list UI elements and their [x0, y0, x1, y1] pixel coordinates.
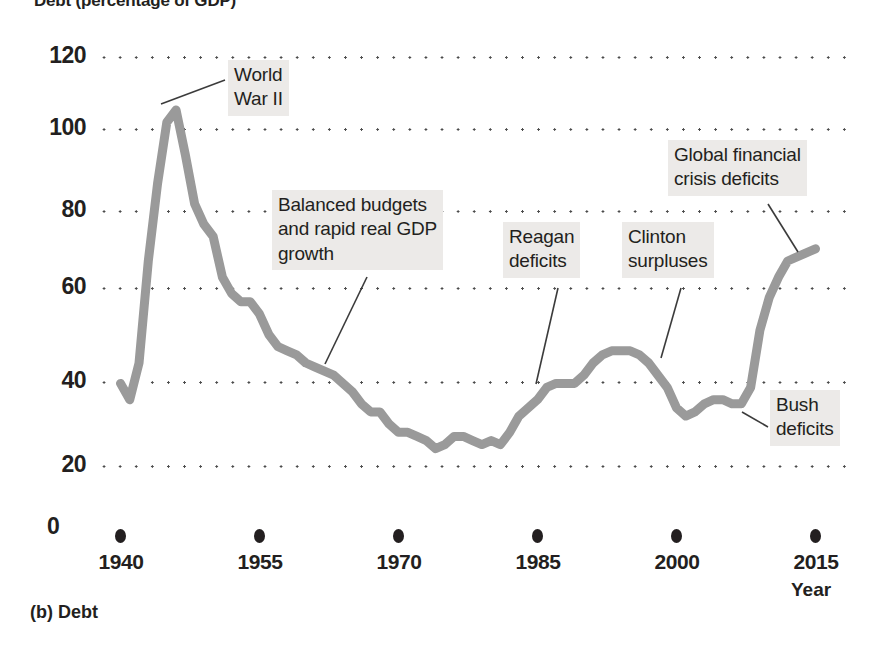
y-tick-60: 60	[26, 273, 86, 300]
gridline-20	[96, 465, 856, 468]
debt-chart-figure: Debt (percentage of GDP) 120 100 80 60 4…	[0, 0, 871, 651]
annotation-reagan-deficits: Reagan deficits	[503, 222, 580, 278]
panel-caption: (b) Debt	[30, 602, 98, 623]
x-tick-label-2015: 2015	[793, 550, 838, 574]
gridline-80	[96, 210, 856, 213]
gridline-100	[96, 128, 856, 131]
x-tick-dot-2000	[671, 529, 682, 543]
y-tick-100: 100	[26, 114, 86, 141]
gridline-40	[96, 381, 856, 384]
x-tick-label-1985: 1985	[515, 550, 560, 574]
annotation-global-financial-crisis: Global financial crisis deficits	[668, 140, 807, 196]
y-axis-labels: 120 100 80 60 40 20	[0, 0, 86, 520]
annotation-clinton-surpluses: Clinton surpluses	[622, 222, 714, 278]
x-tick-dot-1955	[254, 529, 265, 543]
x-tick-dot-2015	[810, 529, 821, 543]
y-tick-40: 40	[26, 367, 86, 394]
gridline-120	[96, 56, 856, 59]
gridline-60	[96, 287, 856, 290]
x-tick-label-1955: 1955	[237, 550, 282, 574]
x-axis: 1940 1955 1970 1985 2000 2015 Year	[0, 525, 871, 645]
x-tick-label-1970: 1970	[376, 550, 421, 574]
annotation-balanced-budgets: Balanced budgets and rapid real GDP grow…	[272, 190, 443, 270]
x-axis-title: Year	[791, 579, 831, 601]
plot-area	[96, 57, 856, 466]
annotation-bush-deficits: Bush deficits	[770, 390, 840, 446]
x-tick-dot-1970	[393, 529, 404, 543]
y-tick-80: 80	[26, 196, 86, 223]
x-tick-dot-1985	[532, 529, 543, 543]
annotation-world-war-ii: World War II	[228, 60, 289, 116]
data-line-layer	[96, 57, 856, 466]
y-tick-120: 120	[26, 42, 86, 69]
x-tick-label-1940: 1940	[98, 550, 143, 574]
y-tick-20: 20	[26, 451, 86, 478]
x-tick-label-2000: 2000	[654, 550, 699, 574]
x-tick-dot-1940	[115, 529, 126, 543]
